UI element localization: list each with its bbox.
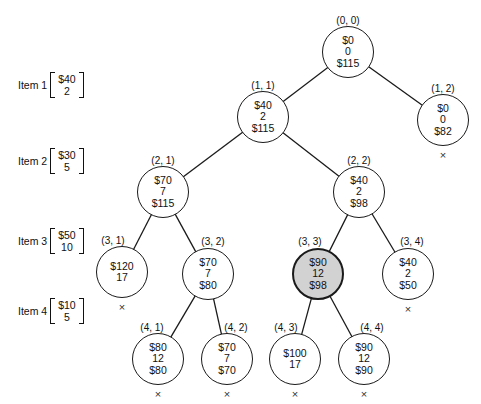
bracket-right-icon: [79, 72, 84, 98]
node-weight: 17: [116, 272, 128, 284]
item-name-4: Item 4: [18, 305, 47, 317]
node-weight: 17: [289, 359, 301, 371]
node-label-3-1: (3, 1): [101, 235, 124, 246]
tree-edge: [330, 296, 352, 337]
tree-edge: [133, 214, 151, 250]
tree-node-1-2[interactable]: $00$82: [417, 94, 469, 146]
tree-edge: [283, 132, 340, 176]
item-vector-values-1: $402: [55, 72, 79, 98]
item-name-1: Item 1: [18, 79, 47, 91]
item-weight-2: 5: [64, 161, 70, 173]
tree-edge: [283, 67, 328, 102]
node-label-4-2: (4, 2): [224, 322, 247, 333]
item-value-2: $30: [58, 149, 76, 161]
tree-edge: [213, 298, 221, 334]
bracket-right-icon: [79, 298, 84, 324]
tree-node-0-0[interactable]: $00$115: [322, 26, 374, 78]
bracket-right-icon: [79, 148, 84, 174]
node-label-0-0: (0, 0): [336, 15, 359, 26]
tree-node-4-2[interactable]: $707$70: [201, 333, 253, 385]
node-bound: $115: [152, 198, 175, 210]
tree-node-3-3[interactable]: $9012$98: [292, 248, 344, 300]
item-row-3: Item 3$5010: [18, 228, 84, 254]
tree-node-1-1[interactable]: $402$115: [237, 91, 289, 143]
tree-edge: [175, 214, 196, 252]
tree-node-2-1[interactable]: $707$115: [137, 166, 189, 218]
item-vector-values-4: $105: [55, 298, 79, 324]
item-weight-4: 5: [64, 311, 70, 323]
tree-node-4-3[interactable]: $10017: [269, 333, 321, 385]
item-value-1: $40: [58, 73, 76, 85]
item-row-1: Item 1$402: [18, 72, 84, 98]
node-bound: $80: [199, 280, 217, 292]
node-label-2-1: (2, 1): [151, 155, 174, 166]
node-label-4-4: (4, 4): [360, 322, 383, 333]
item-vector-4: $105: [50, 298, 84, 324]
pruned-marker-1-2: ×: [440, 149, 446, 161]
item-name-3: Item 3: [18, 235, 47, 247]
tree-node-4-4[interactable]: $9012$90: [338, 333, 390, 385]
item-vector-values-2: $305: [55, 148, 79, 174]
pruned-marker-4-3: ×: [292, 388, 298, 400]
node-label-4-1: (4, 1): [140, 322, 163, 333]
tree-node-3-4[interactable]: $402$50: [382, 248, 434, 300]
item-vector-3: $5010: [50, 228, 84, 254]
tree-edge: [302, 298, 312, 335]
tree-node-3-2[interactable]: $707$80: [182, 248, 234, 300]
knapsack-branch-and-bound-diagram: Item 1$402Item 2$305Item 3$5010Item 4$10…: [0, 0, 481, 404]
node-label-2-2: (2, 2): [347, 155, 370, 166]
pruned-marker-3-4: ×: [405, 303, 411, 315]
item-value-3: $50: [58, 229, 76, 241]
node-label-1-1: (1, 1): [251, 80, 274, 91]
item-vector-2: $305: [50, 148, 84, 174]
item-vector-1: $402: [50, 72, 84, 98]
item-value-4: $10: [58, 299, 76, 311]
tree-node-3-1[interactable]: $12017: [96, 246, 148, 298]
tree-node-2-2[interactable]: $402$98: [333, 166, 385, 218]
tree-edge: [368, 67, 422, 106]
node-bound: $115: [337, 58, 360, 70]
node-bound: $80: [149, 365, 167, 377]
pruned-marker-3-1: ×: [119, 301, 125, 313]
node-label-1-2: (1, 2): [431, 83, 454, 94]
tree-edge: [329, 214, 348, 251]
node-label-4-3: (4, 3): [274, 322, 297, 333]
item-row-2: Item 2$305: [18, 148, 84, 174]
item-weight-3: 10: [61, 241, 73, 253]
tree-edge: [171, 296, 196, 338]
node-bound: $90: [355, 365, 373, 377]
pruned-marker-4-4: ×: [361, 388, 367, 400]
node-bound: $82: [434, 126, 452, 138]
node-label-3-4: (3, 4): [400, 236, 423, 247]
item-vector-values-3: $5010: [55, 228, 79, 254]
node-label-3-2: (3, 2): [201, 236, 224, 247]
node-bound: $115: [252, 123, 275, 135]
node-bound: $50: [399, 280, 417, 292]
tree-edge: [183, 132, 243, 177]
bracket-right-icon: [79, 228, 84, 254]
pruned-marker-4-2: ×: [224, 388, 230, 400]
tree-node-4-1[interactable]: $8012$80: [132, 333, 184, 385]
pruned-marker-4-1: ×: [155, 388, 161, 400]
item-weight-1: 2: [64, 85, 70, 97]
tree-edge: [372, 213, 395, 252]
node-bound: $98: [350, 198, 368, 210]
node-bound: $70: [218, 365, 236, 377]
item-row-4: Item 4$105: [18, 298, 84, 324]
node-bound: $98: [309, 280, 327, 292]
item-name-2: Item 2: [18, 155, 47, 167]
node-label-3-3: (3, 3): [298, 236, 321, 247]
